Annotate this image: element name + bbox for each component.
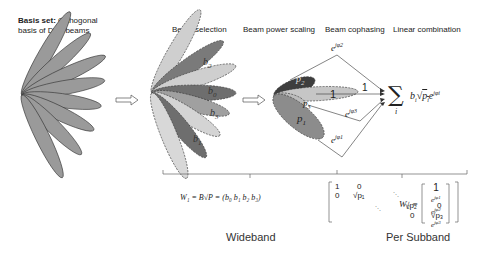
selected-beam-fan: [145, 6, 239, 181]
matrix-cell: 0: [335, 191, 339, 200]
beam-label-b2: b2: [203, 56, 212, 70]
power-label-p1: p1: [297, 112, 306, 127]
vector-cell: ejφ2: [425, 205, 447, 217]
matrix-dots: ⋱: [393, 190, 399, 197]
phase-label-e3: ejφ3: [345, 108, 357, 119]
beam-label-b0: b0: [208, 85, 217, 99]
power-label-one: 1: [330, 88, 336, 100]
phase-label-one: 1: [362, 82, 368, 93]
w1-equation: W₁ = B√P = (b₀ b₁ b₂ b₃): [180, 193, 261, 202]
wideband-label: Wideband: [226, 231, 276, 243]
matrix-cell: 0: [410, 211, 414, 220]
basis-beam-fan: [16, 8, 109, 180]
matrix-cell: √p₁: [353, 191, 365, 200]
matrix-cell: 1: [335, 182, 339, 191]
beam-label-b1: b1: [193, 133, 202, 147]
sum-body: bi√piejφi: [410, 90, 440, 103]
matrix-cell: 0: [357, 182, 361, 191]
w2-vector: 1 ejφ1 ejφ2 ejφ3: [425, 183, 447, 230]
sum-symbol: ∑: [388, 82, 404, 107]
vector-cell: 1: [425, 183, 447, 193]
phase-label-e1: ejφ1: [331, 134, 343, 145]
per-subband-label: Per Subband: [386, 231, 450, 243]
power-label-p3: p3: [303, 98, 311, 110]
arrowheads: [380, 88, 385, 106]
beam-label-b3: b3: [210, 107, 219, 121]
phase-label-e2: ejφ2: [331, 42, 343, 53]
vector-cell: ejφ1: [425, 193, 447, 205]
w2-equation: W₂ =: [399, 199, 418, 209]
sum-index: i: [395, 107, 397, 116]
matrix-dots: ⋱: [375, 204, 381, 211]
power-label-p2: p2: [296, 73, 305, 87]
vector-cell: ejφ3: [425, 218, 447, 230]
